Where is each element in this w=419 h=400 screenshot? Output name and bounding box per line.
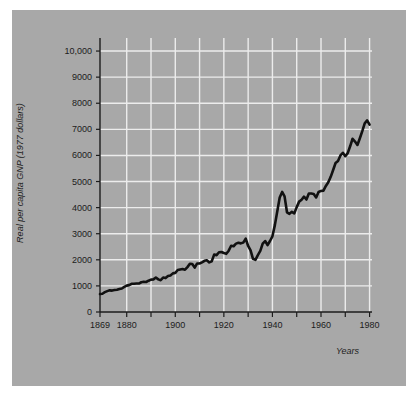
x-tick-label: 1880 — [117, 320, 137, 330]
x-tick-label: 1960 — [311, 320, 331, 330]
y-tick-label: 1000 — [30, 281, 92, 291]
y-tick-label: 6000 — [30, 150, 92, 160]
chart-screenshot: Real per capita GNP (1977 dollars) Years… — [0, 0, 419, 400]
y-tick-label: 0 — [30, 307, 92, 317]
x-tick-label: 1980 — [360, 320, 380, 330]
x-tick-label: 1869 — [90, 320, 110, 330]
x-tick-label: 1900 — [165, 320, 185, 330]
x-tick-label: 1940 — [262, 320, 282, 330]
y-tick-label: 10,000 — [30, 46, 92, 56]
gnp-line-chart — [0, 0, 419, 400]
y-axis-title: Real per capita GNP (1977 dollars) — [15, 93, 25, 253]
x-tick-label: 1920 — [214, 320, 234, 330]
y-tick-label: 2000 — [30, 255, 92, 265]
y-tick-label: 8000 — [30, 98, 92, 108]
y-tick-label: 7000 — [30, 124, 92, 134]
y-tick-label: 9000 — [30, 72, 92, 82]
y-tick-label: 3000 — [30, 229, 92, 239]
y-tick-label: 5000 — [30, 177, 92, 187]
y-tick-label: 4000 — [30, 203, 92, 213]
x-axis-title: Years — [336, 346, 359, 356]
